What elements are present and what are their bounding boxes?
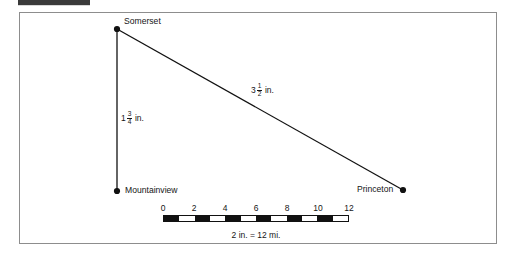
scale-bar-segment — [333, 216, 348, 221]
fraction-denominator: 2 — [257, 90, 263, 98]
scale-tick-label: 0 — [161, 203, 166, 213]
measure-unit: in. — [265, 85, 274, 95]
scale-bar-group: 024681012 — [163, 203, 349, 222]
measure-fraction: 1 2 — [257, 83, 263, 98]
fraction-numerator: 3 — [127, 111, 133, 118]
measure-whole-number: 3 — [251, 85, 256, 95]
scale-bar-segment — [271, 216, 286, 221]
city-label-mountainview: Mountainview — [125, 186, 178, 195]
scale-bar-segment — [287, 216, 302, 221]
city-label-princeton: Princeton — [357, 185, 393, 194]
measure-label-somerset-mountainview: 1 3 4 in. — [121, 111, 144, 126]
scale-bar-segment — [241, 216, 256, 221]
scale-bar-segment — [317, 216, 332, 221]
cropped-header-bar — [18, 0, 90, 6]
fraction-denominator: 4 — [127, 118, 133, 126]
scale-tick-label: 4 — [223, 203, 228, 213]
measure-fraction: 3 4 — [127, 111, 133, 126]
measure-unit: in. — [135, 113, 144, 123]
scale-bar-segment — [302, 216, 317, 221]
scale-caption: 2 in. = 12 mi. — [163, 230, 349, 240]
scale-tick-label: 12 — [344, 203, 353, 213]
fraction-numerator: 1 — [257, 83, 263, 90]
measure-label-somerset-princeton: 3 1 2 in. — [251, 83, 274, 98]
city-label-somerset: Somerset — [124, 17, 161, 26]
scale-bar — [163, 215, 349, 222]
scale-bar-segment — [195, 216, 210, 221]
scale-bar-segment — [225, 216, 240, 221]
figure-canvas: Somerset Mountainview Princeton 1 3 4 in… — [0, 0, 513, 257]
scale-bar-segment — [164, 216, 179, 221]
scale-bar-segment — [256, 216, 271, 221]
scale-tick-label: 2 — [192, 203, 197, 213]
scale-bar-segment — [210, 216, 225, 221]
scale-tick-labels: 024681012 — [163, 203, 349, 215]
scale-bar-segment — [179, 216, 194, 221]
scale-tick-label: 6 — [254, 203, 259, 213]
scale-tick-label: 8 — [285, 203, 290, 213]
measure-whole-number: 1 — [121, 113, 126, 123]
scale-tick-label: 10 — [313, 203, 322, 213]
